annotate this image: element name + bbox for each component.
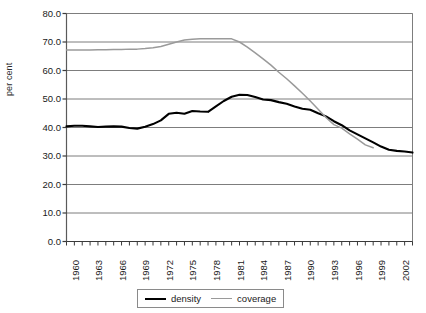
x-axis-tick-labels: 1960196319661969197219751978198119841987… [0, 0, 426, 313]
chart-container: per cent 0.010.020.030.040.050.060.070.0… [0, 0, 426, 313]
legend-item-coverage: coverage [211, 294, 276, 304]
x-tick-label: 1975 [188, 260, 198, 281]
x-tick-label: 1978 [212, 260, 222, 281]
x-tick-label: 1987 [283, 260, 293, 281]
x-tick-label: 2002 [401, 260, 411, 281]
x-tick-label: 1993 [330, 260, 340, 281]
x-tick-label: 1966 [118, 260, 128, 281]
legend-label-density: density [171, 294, 201, 304]
x-tick-label: 1990 [306, 260, 316, 281]
x-tick-label: 1999 [377, 260, 387, 281]
legend-item-density: density [145, 294, 201, 304]
legend-label-coverage: coverage [237, 294, 276, 304]
x-tick-label: 1984 [259, 260, 269, 281]
legend-line-swatch-coverage [211, 298, 232, 299]
x-tick-label: 1969 [141, 260, 151, 281]
x-tick-label: 1972 [165, 260, 175, 281]
x-tick-label: 1996 [354, 260, 364, 281]
legend-line-swatch-density [145, 298, 166, 300]
x-tick-label: 1960 [71, 260, 81, 281]
x-tick-label: 1981 [236, 260, 246, 281]
chart-legend: density coverage [137, 289, 284, 308]
x-tick-label: 1963 [94, 260, 104, 281]
